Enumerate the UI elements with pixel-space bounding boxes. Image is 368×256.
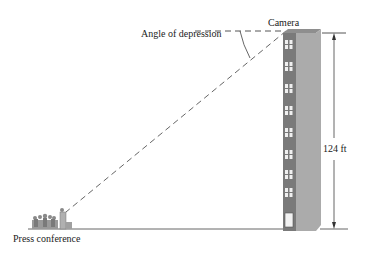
press-conference-label: Press conference [13, 233, 81, 244]
press-conference-crowd [32, 208, 72, 229]
arrow-up-icon [332, 33, 336, 40]
camera-label: Camera [268, 17, 300, 28]
building [283, 29, 321, 231]
angle-arc [240, 31, 250, 58]
building-side [296, 29, 321, 231]
podium [60, 212, 66, 229]
arrow-down-icon [332, 222, 336, 229]
angle-of-depression-diagram: Camera Angle of depression 124 ft Press … [0, 0, 368, 256]
height-dimension [322, 33, 346, 229]
building-top [283, 29, 321, 33]
line-of-sight [66, 31, 286, 212]
height-label: 124 ft [323, 143, 347, 154]
building-door [285, 213, 293, 227]
angle-of-depression-label: Angle of depression [141, 28, 222, 39]
